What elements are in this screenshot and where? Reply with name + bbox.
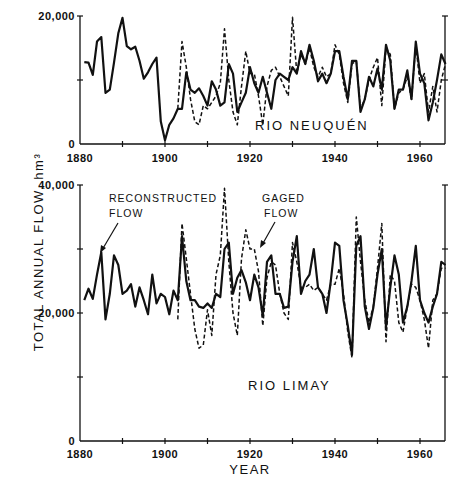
top-xtick-1900: 1900 xyxy=(152,152,178,164)
bottom-xtick-1880: 1880 xyxy=(67,448,93,460)
bottom-ytick-20000: 20,000 xyxy=(38,307,75,319)
x-axis-title: YEAR xyxy=(229,462,270,477)
arrowhead-gaged-icon xyxy=(260,240,266,248)
gaged-flow-line xyxy=(178,17,446,125)
bottom-xtick-1960: 1960 xyxy=(407,448,433,460)
top-ytick-0: 0 xyxy=(68,138,75,150)
panel-rio-neuquen: 20,000 0 1880 1900 1920 1940 1960 RIO NE… xyxy=(38,10,448,164)
annotation-reconstructed: RECONSTRUCTED xyxy=(109,192,217,204)
annotation-arrow-reconstructed xyxy=(102,223,118,250)
annotation-arrow-gaged xyxy=(262,222,275,245)
top-xtick-1920: 1920 xyxy=(237,152,263,164)
annotation-gaged-line2: FLOW xyxy=(264,207,298,219)
figure: TOTAL ANNUAL FLOW, hm³ 20,000 0 1880 190… xyxy=(0,0,461,478)
bottom-xtick-1920: 1920 xyxy=(237,448,263,460)
gaged-flow-line xyxy=(178,188,446,358)
bottom-ytick-0: 0 xyxy=(68,435,75,447)
top-xtick-1940: 1940 xyxy=(322,152,348,164)
bottom-panel-title: RIO LIMAY xyxy=(248,378,331,393)
top-xtick-1960: 1960 xyxy=(407,152,433,164)
annotation-gaged: GAGED xyxy=(262,192,305,204)
panel-rio-limay: 40,000 20,000 0 1880 1900 1920 1940 1960… xyxy=(38,179,448,460)
annotation-reconstructed-line2: FLOW xyxy=(109,207,143,219)
top-ytick-20000: 20,000 xyxy=(38,10,75,22)
arrowhead-reconstructed-icon xyxy=(100,245,106,253)
bottom-ytick-40000: 40,000 xyxy=(38,179,75,191)
bottom-xtick-1900: 1900 xyxy=(152,448,178,460)
top-panel-title: RIO NEUQUÉN xyxy=(255,118,369,133)
bottom-xtick-1940: 1940 xyxy=(322,448,348,460)
top-xtick-1880: 1880 xyxy=(67,152,93,164)
